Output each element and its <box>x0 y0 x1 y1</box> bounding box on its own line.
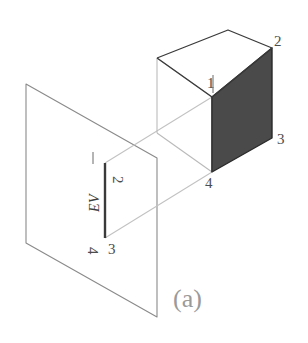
cube-vertex-4-label: 4 <box>205 175 213 191</box>
cube-shaded-face <box>212 48 272 172</box>
edge-view-projection-diagram: 1 2 3 4 2 4 3 EV (a) <box>0 0 308 343</box>
edge-view-vertex-4-label: 4 <box>85 247 101 255</box>
cube-object: 1 2 3 4 <box>157 30 285 191</box>
figure-container: 1 2 3 4 2 4 3 EV (a) <box>0 0 308 343</box>
cube-vertex-2-label: 2 <box>274 33 282 49</box>
projector-line-upper <box>105 97 212 163</box>
edge-view-label: EV <box>87 193 102 213</box>
cube-hidden-edges <box>157 58 212 172</box>
figure-caption: (a) <box>173 284 202 313</box>
edge-view-vertex-2-label: 2 <box>110 176 126 184</box>
edge-view-vertex-3-label: 3 <box>108 241 116 257</box>
cube-vertex-3-label: 3 <box>277 131 285 147</box>
cube-edge-bottom-left <box>157 133 212 172</box>
cube-vertex-1-label: 1 <box>207 75 215 91</box>
